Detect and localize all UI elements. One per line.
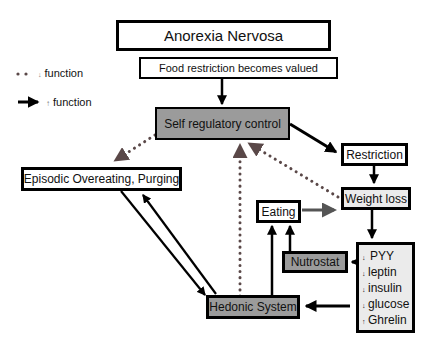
hormone-leptin: ↓leptin <box>362 265 412 281</box>
down-arrow-icon: ↓ <box>38 71 42 78</box>
node-eating: Eating <box>256 200 301 223</box>
dotted-selfreg-to-episodic <box>116 135 155 160</box>
hormone-glucose: ↓glucose <box>362 297 412 313</box>
node-food-restriction: Food restriction becomes valued <box>139 57 338 79</box>
hormone-pyy: ↓PYY <box>362 249 412 265</box>
node-anorexia-nervosa: Anorexia Nervosa <box>116 20 331 51</box>
legend-dotted-label: ↓ function <box>38 67 83 79</box>
node-nutrostat: Nutrostat <box>282 251 348 273</box>
node-restriction: Restriction <box>341 143 408 166</box>
node-self-regulatory-control: Self regulatory control <box>155 107 290 140</box>
dotted-weightloss-to-selfreg <box>250 144 338 197</box>
arrow-hedonic-to-episodic <box>143 195 216 294</box>
arrow-episodic-to-hedonic <box>121 191 205 295</box>
hormone-ghrelin: ↑Ghrelin <box>362 313 412 329</box>
node-episodic-overeating: Episodic Overeating, Purging <box>21 167 182 191</box>
node-hormones: ↓PYY ↓leptin ↓insulin ↓glucose ↑Ghrelin <box>356 242 415 333</box>
arrow-selfreg-to-restriction <box>290 124 336 152</box>
node-weight-loss: Weight loss <box>341 187 411 210</box>
hormone-insulin: ↓insulin <box>362 281 412 297</box>
node-hedonic-system: Hedonic System <box>206 295 300 319</box>
up-arrow-icon: ↑ <box>46 99 50 108</box>
legend-solid-label: ↑ function <box>46 96 92 108</box>
down-arrow-icon: ↓ <box>362 250 368 265</box>
legend-dots <box>16 72 27 75</box>
